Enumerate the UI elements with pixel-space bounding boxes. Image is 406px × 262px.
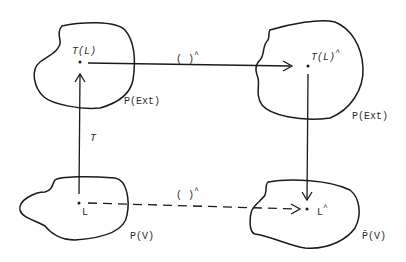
region-top-left-blob bbox=[34, 23, 134, 109]
label-bottom-right-region: P̄(V) bbox=[362, 232, 386, 242]
label-edge-top: ( )^ bbox=[176, 51, 199, 65]
label-text: ( ) bbox=[176, 190, 194, 201]
point-bottom-left bbox=[78, 202, 81, 205]
label-bottom-left-point: L bbox=[82, 208, 88, 218]
region-bottom-right-blob bbox=[250, 180, 359, 248]
arrowhead-bottom bbox=[291, 204, 300, 214]
label-top-left-point: T(L) bbox=[72, 47, 96, 57]
label-top-right-point: T(L)^ bbox=[311, 49, 340, 63]
label-bottom-left-region: P(V) bbox=[130, 232, 154, 242]
region-bottom-left-blob bbox=[20, 177, 128, 240]
label-text: T bbox=[90, 133, 96, 144]
point-top-left bbox=[79, 61, 82, 64]
hat-superscript: ^ bbox=[335, 48, 340, 57]
label-text: P(V) bbox=[130, 231, 154, 242]
hat-superscript: ^ bbox=[323, 203, 328, 212]
label-bottom-right-point: L^ bbox=[317, 204, 328, 218]
label-text: P̄(V) bbox=[362, 231, 386, 242]
region-top-right-blob bbox=[256, 21, 363, 119]
label-text: T(L) bbox=[311, 52, 335, 63]
hat-superscript: ^ bbox=[194, 186, 199, 195]
label-edge-bottom: ( )^ bbox=[176, 187, 199, 201]
label-text: P(Ext) bbox=[352, 111, 388, 122]
label-text: T(L) bbox=[72, 46, 96, 57]
label-top-left-region: P(Ext) bbox=[124, 97, 160, 107]
label-text: L bbox=[82, 207, 88, 218]
diagram-canvas bbox=[0, 0, 406, 262]
label-top-right-region: P(Ext) bbox=[352, 112, 388, 122]
label-edge-left: T bbox=[90, 134, 96, 144]
point-bottom-right bbox=[306, 208, 309, 211]
label-text: P(Ext) bbox=[124, 96, 160, 107]
label-text: ( ) bbox=[176, 54, 194, 65]
hat-superscript: ^ bbox=[194, 50, 199, 59]
edge-bottom-arrow bbox=[88, 203, 297, 209]
point-top-right bbox=[307, 65, 310, 68]
